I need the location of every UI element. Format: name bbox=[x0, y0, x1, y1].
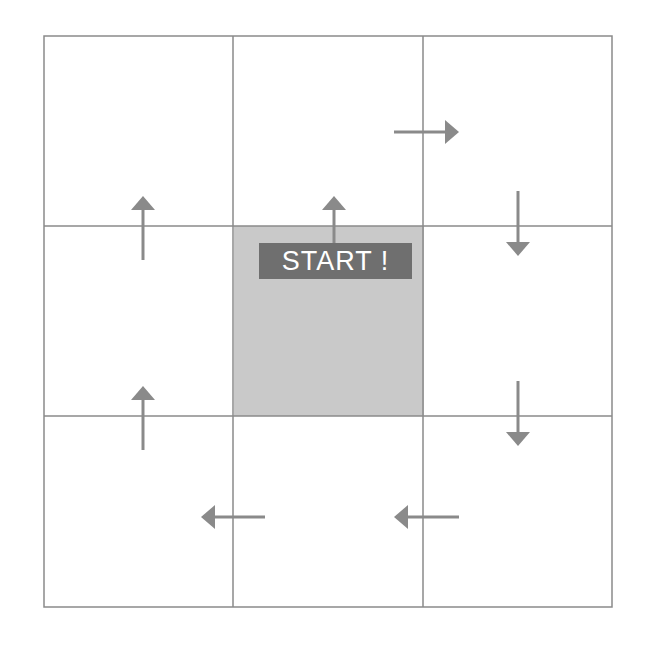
grid-and-arrows bbox=[0, 0, 648, 651]
arrow-up-icon bbox=[322, 196, 346, 245]
arrow-right-icon bbox=[394, 120, 459, 144]
arrow-up-icon bbox=[131, 386, 155, 450]
start-label: START ! bbox=[259, 243, 412, 279]
arrow-left-icon bbox=[394, 505, 459, 529]
arrow-down-icon bbox=[506, 381, 530, 446]
arrow-up-icon bbox=[131, 196, 155, 260]
arrow-down-icon bbox=[506, 191, 530, 256]
grid-lines bbox=[44, 36, 612, 607]
